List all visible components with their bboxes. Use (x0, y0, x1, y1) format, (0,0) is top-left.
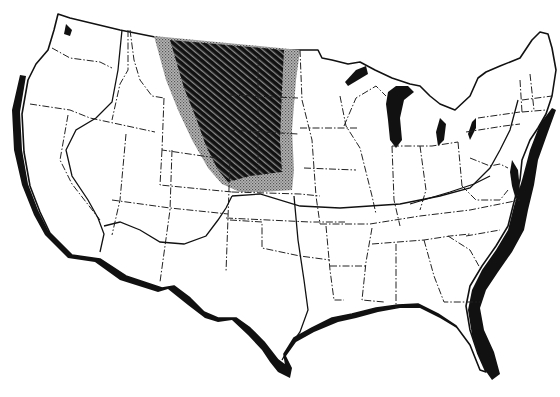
us-map (0, 0, 560, 397)
map-canvas (0, 0, 560, 397)
